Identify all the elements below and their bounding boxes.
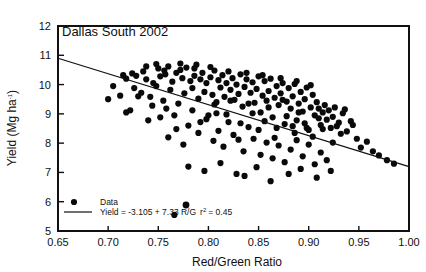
data-point xyxy=(300,153,306,159)
data-point xyxy=(241,84,247,90)
data-point xyxy=(145,117,151,123)
data-point xyxy=(330,114,336,120)
data-point xyxy=(185,163,191,169)
data-point xyxy=(350,122,356,128)
data-point xyxy=(210,138,216,144)
data-point xyxy=(215,77,221,83)
data-point xyxy=(344,128,350,134)
data-point xyxy=(169,79,175,85)
data-point xyxy=(310,92,316,98)
data-point xyxy=(219,72,225,78)
data-point xyxy=(180,142,186,148)
data-point xyxy=(272,95,278,101)
data-point xyxy=(268,178,274,184)
data-point xyxy=(320,109,326,115)
data-point xyxy=(243,76,249,82)
data-point xyxy=(284,113,290,119)
data-point xyxy=(229,75,235,81)
data-point xyxy=(201,89,207,95)
data-point xyxy=(314,99,320,105)
data-point xyxy=(225,119,231,125)
data-point xyxy=(286,171,292,177)
data-point xyxy=(235,137,241,143)
data-point xyxy=(227,98,233,104)
data-point xyxy=(197,76,203,82)
data-point xyxy=(153,61,159,67)
data-point xyxy=(197,119,203,125)
y-tick-label: 5 xyxy=(45,225,51,237)
data-point xyxy=(324,157,330,163)
data-point xyxy=(334,123,340,129)
data-point xyxy=(302,96,308,102)
data-point xyxy=(147,94,153,100)
data-point xyxy=(187,78,193,84)
data-point xyxy=(253,86,259,92)
data-point xyxy=(318,149,324,155)
x-axis-title: Red/Green Ratio xyxy=(192,255,282,269)
data-point xyxy=(286,85,292,91)
y-tick-label: 8 xyxy=(45,137,51,149)
data-point xyxy=(304,125,310,131)
data-point xyxy=(250,136,256,142)
legend-data-label: Data xyxy=(100,197,118,207)
data-point xyxy=(245,101,251,107)
data-point xyxy=(288,105,294,111)
data-point xyxy=(110,83,116,89)
data-point xyxy=(221,94,227,100)
data-point xyxy=(294,117,300,123)
data-point xyxy=(163,105,169,111)
data-point xyxy=(253,164,259,170)
legend-equation-suffix: 3 R/G xyxy=(174,207,196,217)
data-point xyxy=(227,87,233,93)
data-point xyxy=(290,93,296,99)
x-tick-label: 0.85 xyxy=(248,236,269,248)
x-tick-label: 0.70 xyxy=(97,236,118,248)
data-point xyxy=(282,159,288,165)
x-tick-label: 0.95 xyxy=(348,236,369,248)
data-point xyxy=(217,84,223,90)
data-point xyxy=(322,102,328,108)
data-point xyxy=(185,122,191,128)
data-point xyxy=(298,89,304,95)
data-point xyxy=(220,144,226,150)
data-point xyxy=(143,76,149,82)
data-point xyxy=(255,127,261,133)
data-point xyxy=(342,106,348,112)
data-point xyxy=(320,126,326,132)
data-point xyxy=(143,63,149,69)
data-point xyxy=(131,85,137,91)
data-point xyxy=(259,72,265,78)
data-point xyxy=(358,144,364,150)
legend-r-value: = 0.45 xyxy=(208,207,232,217)
data-point xyxy=(270,155,276,161)
data-point xyxy=(213,110,219,116)
data-point xyxy=(177,60,183,66)
y-axis-title-base: Yield (Mg ha xyxy=(5,99,19,166)
occluding-data-point xyxy=(183,202,190,209)
x-tick-label: 0.90 xyxy=(298,236,319,248)
data-point xyxy=(270,114,276,120)
data-point xyxy=(312,161,318,167)
data-point xyxy=(332,104,338,110)
y-tick-label: 12 xyxy=(39,20,51,32)
data-point xyxy=(280,97,286,103)
svg-text:Yield (Mg ha-1): Yield (Mg ha-1) xyxy=(5,90,19,166)
data-point xyxy=(117,93,123,99)
data-point xyxy=(268,76,274,82)
data-point xyxy=(276,142,282,148)
data-point xyxy=(223,80,229,86)
scatter-plot-svg: 0.650.700.750.800.850.900.951.00 5678910… xyxy=(0,0,426,272)
data-point xyxy=(207,74,213,80)
y-tick-label: 9 xyxy=(45,108,51,120)
data-point xyxy=(298,166,304,172)
data-point xyxy=(203,80,209,86)
data-point xyxy=(294,78,300,84)
data-point xyxy=(160,98,166,104)
data-point xyxy=(209,92,215,98)
data-point xyxy=(314,175,320,181)
y-axis-title: Yield (Mg ha-1) xyxy=(5,90,19,166)
data-point xyxy=(199,70,205,76)
y-tick-label: 11 xyxy=(40,49,51,61)
data-point xyxy=(338,131,344,137)
data-point xyxy=(191,73,197,79)
